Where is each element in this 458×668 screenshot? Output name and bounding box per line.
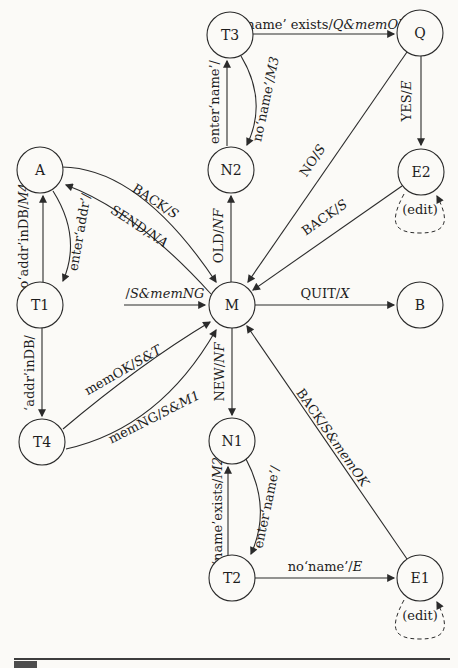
edge-label-T2-E1-input: no‘name’/ [288,559,354,574]
edge-label-T4-M-memNG: memNG/S&M1 [106,387,202,446]
edge-label-E1-self-loop: (edit) [402,608,438,623]
edge-label-E2-M: BACK/S [299,196,350,238]
state-node-M: M [209,282,255,328]
edge-label-Q-E2-input: YES/ [399,89,414,122]
edge-label-E1-self-loop-input: (edit) [402,608,438,623]
state-label-Q: Q [414,25,425,41]
edge-label-T2-E1: no‘name’/E [288,559,363,574]
edge-label-M-N1-input: NEW/ [212,362,227,401]
edge-label-T3-Q-input: ‘name’ exists/ [242,17,333,32]
edge-label-T1-T4: ‘addr’inDB/ [22,335,37,411]
edge-label-E1-M-input: BACK/ [293,386,330,430]
edge-label-T1-A: no‘addr’inDB/M4 [16,183,31,297]
state-diagram: /S&memNG ‘name’ exists/Q&memOK enter‘nam… [0,0,458,668]
edge-E1-to-M [247,326,407,559]
state-node-T1: T1 [17,282,63,328]
edge-label-T2-E1-output: E [352,559,363,574]
edge-label-T2-N1: ‘name’exists/M2 [210,457,225,565]
edge-label-M-N2-input: OLD/ [211,229,226,264]
state-label-A: A [34,162,46,178]
state-label-T3: T3 [221,27,239,43]
edge-label-N2-T3: enter‘name’/ [207,59,222,144]
edge-label-T4-M-memOK-input: memOK/ [82,356,139,398]
edge-T4-to-M-memOK [63,322,210,429]
edge-label-T4-M-memNG-input: memNG/ [106,406,165,446]
edge-label-M-A-input: SEND/ [108,202,154,239]
edge-label-Q-M: NO/S [296,142,328,180]
edge-label-M-B: QUIT/X [300,286,350,301]
edge-label-T4-M-memOK-output: S&T [131,341,165,369]
edge-label-M-B-input: QUIT/ [300,286,340,301]
state-label-T4: T4 [33,434,51,450]
state-label-E1: E1 [410,570,429,586]
state-node-A: A [17,147,63,193]
edge-label-A-M-input: BACK/ [130,181,175,217]
state-node-B: B [397,282,443,328]
state-label-M: M [225,297,239,313]
state-node-Q: Q [397,10,443,56]
edge-label-E1-M: BACK/S&memOK [293,386,373,491]
edges [42,34,444,639]
state-node-T4: T4 [19,419,65,465]
edge-label-T4-M-memOK: memOK/S&T [82,341,165,398]
state-node-T2: T2 [209,555,255,601]
state-label-B: B [415,297,425,313]
edge-label-Q-E2-output: E [399,80,414,91]
state-node-E2: E2 [398,149,444,195]
edge-label-E2-self-loop: (edit) [402,202,438,217]
edge-label-N2-T3-input: enter‘name’/ [207,59,222,144]
edge-label-T2-N1-input: ‘name’exists/ [210,478,225,565]
edge-label-T3-N2-output: M3 [263,55,282,80]
edge-label-start-M: /S&memNG [126,286,205,301]
edge-label-E2-self-loop-input: (edit) [402,202,438,217]
edge-label-M-N2-output: NF [211,208,226,230]
edge-label-N1-T2: enter‘name’/ [251,464,283,550]
edge-label-E1-M-output: S&memOK [318,421,373,491]
figure-caption-marker [14,661,37,668]
edge-label-start-M-output: S&memNG [130,286,205,301]
state-label-T1: T1 [31,297,49,313]
edge-E2-to-M [253,186,402,290]
edge-label-T1-A-input: no‘addr’inDB/ [16,204,31,297]
edge-label-T4-M-memNG-output: S&M1 [158,387,202,419]
edge-label-M-N2: OLD/NF [211,208,226,263]
state-label-E2: E2 [411,164,430,180]
state-label-N1: N1 [221,433,242,449]
edge-label-M-N1-output: NF [212,342,227,364]
state-node-N2: N2 [208,147,254,193]
state-label-T2: T2 [223,570,241,586]
state-node-E1: E1 [397,555,443,601]
edge-label-M-B-output: X [339,286,350,301]
figure-page: /S&memNG ‘name’ exists/Q&memOK enter‘nam… [0,0,458,668]
state-label-N2: N2 [220,162,241,178]
edge-label-Q-E2: YES/E [399,80,414,122]
edge-label-T1-T4-input: ‘addr’inDB/ [22,335,37,411]
edge-label-T3-N2: no‘name’/M3 [249,55,282,143]
edge-label-M-N1: NEW/NF [212,342,227,402]
edge-label-N1-T2-input: enter‘name’/ [251,464,283,550]
figure-footer [14,659,450,668]
state-node-T3: T3 [207,12,253,58]
state-node-N1: N1 [209,418,255,464]
edge-label-T3-Q: ‘name’ exists/Q&memOK [242,17,409,32]
